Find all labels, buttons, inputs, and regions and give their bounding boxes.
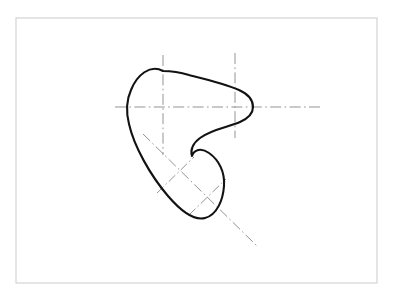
technical-drawing-svg <box>0 0 395 299</box>
drawing-canvas <box>0 0 395 299</box>
